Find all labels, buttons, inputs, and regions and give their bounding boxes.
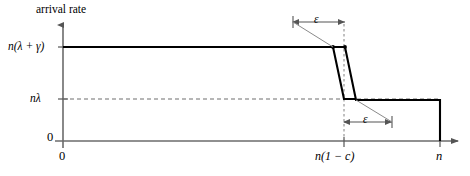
curve-right-transition <box>63 47 440 141</box>
epsilon-top-label: ε <box>314 14 319 26</box>
y-label-high-level: n(λ + γ) <box>8 41 44 53</box>
epsilon-bottom-label: ε <box>363 114 368 126</box>
x-label-n: n <box>436 150 442 163</box>
epsilon-bottom-leader <box>356 100 392 122</box>
arrival-rate-figure: arrival rate n(λ + γ) nλ 0 0 n(1 − c) n … <box>0 0 470 176</box>
x-label-origin: 0 <box>59 150 65 163</box>
y-label-low-level: nλ <box>30 93 41 105</box>
y-label-zero: 0 <box>47 131 53 144</box>
figure-canvas <box>0 0 470 176</box>
breakpoint-right-top <box>343 45 347 49</box>
epsilon-top-leader <box>293 22 333 47</box>
x-label-n-one-minus-c: n(1 − c) <box>315 150 354 162</box>
curve-left-transition <box>63 47 356 99</box>
y-axis-title: arrival rate <box>36 4 86 16</box>
